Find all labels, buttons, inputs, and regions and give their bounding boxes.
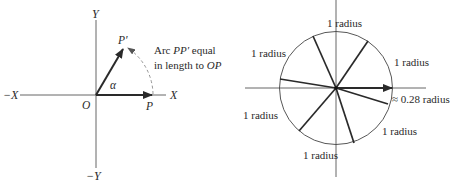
arc-annotation-line-2: in length to OP xyxy=(154,58,222,73)
neg-x-axis-label: −X xyxy=(3,89,18,101)
radius-line-3 xyxy=(336,41,368,88)
radius-label-bottom: 1 radius xyxy=(303,149,338,161)
diagram-canvas xyxy=(0,0,460,184)
left-diagram xyxy=(20,20,166,168)
radius-label-lower-left: 1 radius xyxy=(243,109,278,121)
neg-y-axis-label: −Y xyxy=(86,170,101,182)
radius-line-1 xyxy=(280,79,336,88)
radius-label-top: 1 radius xyxy=(327,17,362,29)
radius-line-5 xyxy=(336,88,354,143)
point-p-prime-label: P′ xyxy=(118,34,128,46)
radius-label-upper-left: 1 radius xyxy=(251,47,286,59)
arc-annotation-line-1: Arc PP′ equal xyxy=(154,43,222,58)
center-point xyxy=(334,86,338,90)
radius-line-4 xyxy=(336,88,388,104)
x-axis-label: X xyxy=(170,89,177,101)
arc-annotation: Arc PP′ equal in length to OP xyxy=(154,43,222,73)
radius-line-2 xyxy=(313,36,336,88)
radius-label-upper-right: 1 radius xyxy=(394,56,429,68)
point-p-label: P xyxy=(146,100,153,112)
radius-label-lower-right: 1 radius xyxy=(382,125,417,137)
y-axis-label: Y xyxy=(92,8,99,20)
remainder-radius-label: ≈ 0.28 radius xyxy=(392,93,450,105)
origin-label: O xyxy=(82,99,90,111)
radius-line-6 xyxy=(299,88,336,131)
angle-alpha-label: α xyxy=(110,79,116,91)
radian-diagram-figure: Y −Y −X X O P P′ α Arc PP′ equal in leng… xyxy=(0,0,460,184)
arc-pp-prime xyxy=(128,48,153,94)
